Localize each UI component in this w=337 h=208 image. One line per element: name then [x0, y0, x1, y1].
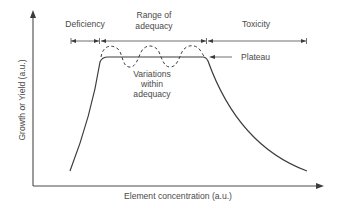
adequacy-variation-wave [101, 46, 205, 67]
zone-label-adequacy-line2: adequacy [135, 21, 173, 31]
zone-label-toxicity: Toxicity [242, 19, 271, 29]
x-axis-arrowhead [316, 183, 324, 189]
variations-label-line1: Variations [133, 69, 171, 79]
x-axis-label: Element concentration (a.u.) [124, 191, 232, 201]
toxicity-range-arrow [208, 38, 307, 44]
adequacy-range-arrow [101, 38, 207, 44]
nutrient-response-diagram: Element concentration (a.u.) Growth or Y… [0, 0, 337, 208]
plateau-label: Plateau [241, 52, 270, 62]
y-axis-label: Growth or Yield (a.u.) [17, 59, 27, 140]
deficiency-range-arrow [71, 38, 100, 44]
variations-label-line2: within [140, 79, 163, 89]
response-curve [70, 57, 307, 171]
zone-label-adequacy-line1: Range of [137, 10, 172, 20]
y-axis-arrowhead [30, 10, 36, 18]
variations-label-line3: adequacy [133, 89, 171, 99]
zone-label-deficiency: Deficiency [65, 19, 105, 29]
plateau-pointer [209, 55, 232, 59]
